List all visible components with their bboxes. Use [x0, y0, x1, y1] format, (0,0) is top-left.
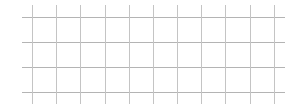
vertical-grid-line	[250, 5, 251, 104]
vertical-grid-line	[177, 5, 178, 104]
grid-canvas	[0, 0, 299, 112]
vertical-grid-line	[32, 5, 33, 104]
vertical-grid-line	[153, 5, 154, 104]
vertical-grid-line	[80, 5, 81, 104]
vertical-grid-line	[274, 5, 275, 104]
vertical-grid-line	[56, 5, 57, 104]
vertical-grid-line	[201, 5, 202, 104]
vertical-grid-line	[129, 5, 130, 104]
vertical-grid-line	[225, 5, 226, 104]
vertical-grid-line	[105, 5, 106, 104]
